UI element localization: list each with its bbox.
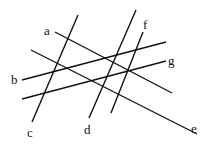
line-diagram: abcdefg bbox=[0, 0, 212, 148]
line-label-a: a bbox=[44, 23, 50, 38]
line-label-d: d bbox=[84, 122, 91, 137]
line-f bbox=[111, 32, 143, 113]
line-label-e: e bbox=[191, 121, 197, 136]
line-g bbox=[22, 61, 166, 99]
line-label-b: b bbox=[11, 72, 18, 87]
line-b bbox=[22, 42, 166, 80]
lines-svg: abcdefg bbox=[0, 0, 212, 148]
line-c bbox=[32, 15, 78, 122]
line-label-g: g bbox=[168, 53, 175, 68]
line-label-c: c bbox=[27, 125, 33, 140]
line-d bbox=[89, 10, 136, 118]
line-label-f: f bbox=[143, 17, 148, 32]
